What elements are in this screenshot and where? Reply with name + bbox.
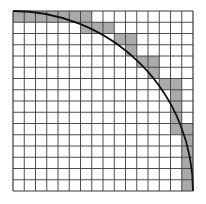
- shaded-cell: [13, 11, 24, 22]
- shaded-cell: [103, 22, 114, 33]
- shaded-cell: [126, 34, 137, 45]
- shaded-cell: [171, 79, 182, 90]
- shaded-cell: [148, 56, 159, 67]
- shaded-cell: [182, 180, 193, 191]
- shaded-cell: [171, 90, 182, 101]
- grid-arc-diagram: [0, 0, 206, 204]
- shaded-cell: [81, 11, 92, 22]
